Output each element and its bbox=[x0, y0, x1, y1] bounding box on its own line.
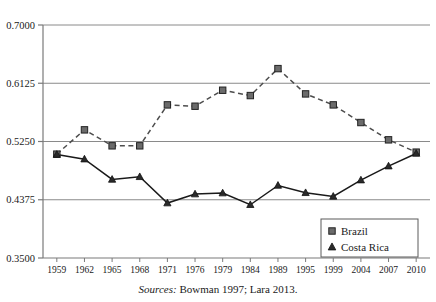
series-lines-group bbox=[57, 69, 416, 205]
x-axis-ticks-group: 1959196219651968197119761979198419891995… bbox=[47, 258, 426, 275]
x-tick-label: 1971 bbox=[158, 265, 177, 275]
series-markers-group bbox=[53, 65, 420, 207]
legend-label-costa-rica[interactable]: Costa Rica bbox=[341, 241, 389, 253]
y-tick-label: 0.7000 bbox=[6, 20, 35, 31]
y-tick-label: 0.5250 bbox=[6, 136, 35, 147]
legend-marker-brazil bbox=[329, 228, 335, 234]
x-tick-label: 1989 bbox=[268, 265, 287, 275]
legend-label-brazil[interactable]: Brazil bbox=[341, 225, 368, 237]
caption-text: Bowman 1997; Lara 2013. bbox=[177, 283, 298, 295]
source-caption: Sources: Bowman 1997; Lara 2013. bbox=[0, 283, 436, 295]
data-point-brazil-2007 bbox=[385, 137, 391, 143]
x-tick-label: 1984 bbox=[241, 265, 260, 275]
data-point-brazil-1979 bbox=[219, 87, 225, 93]
y-tick-label: 0.3500 bbox=[6, 253, 35, 264]
data-point-brazil-1995 bbox=[302, 91, 308, 97]
data-point-brazil-1999 bbox=[330, 102, 336, 108]
x-tick-label: 1976 bbox=[186, 265, 205, 275]
x-tick-label: 1965 bbox=[103, 265, 122, 275]
x-tick-label: 2007 bbox=[379, 265, 398, 275]
gridlines-group bbox=[43, 25, 430, 200]
y-tick-label: 0.4375 bbox=[6, 194, 35, 205]
line-chart: 0.70000.61250.52500.43750.3500 195919621… bbox=[0, 0, 436, 302]
y-tick-label: 0.6125 bbox=[6, 78, 35, 89]
figure-container: 0.70000.61250.52500.43750.3500 195919621… bbox=[0, 0, 436, 302]
data-point-brazil-1962 bbox=[81, 127, 87, 133]
data-point-brazil-1989 bbox=[275, 65, 281, 71]
data-point-brazil-1968 bbox=[137, 143, 143, 149]
x-tick-label: 2010 bbox=[407, 265, 426, 275]
data-point-brazil-1971 bbox=[164, 102, 170, 108]
data-point-brazil-1965 bbox=[109, 143, 115, 149]
data-point-brazil-2004 bbox=[358, 119, 364, 125]
chart-legend[interactable]: BrazilCosta Rica bbox=[321, 219, 418, 257]
y-axis-ticks-group: 0.70000.61250.52500.43750.3500 bbox=[6, 20, 43, 264]
caption-label: Sources: bbox=[139, 283, 177, 295]
x-tick-label: 2004 bbox=[351, 265, 370, 275]
data-point-brazil-1976 bbox=[192, 103, 198, 109]
x-tick-label: 1979 bbox=[213, 265, 232, 275]
x-tick-label: 1995 bbox=[296, 265, 315, 275]
data-point-costa-rica-1968 bbox=[136, 173, 143, 180]
x-tick-label: 1999 bbox=[324, 265, 343, 275]
x-tick-label: 1968 bbox=[130, 265, 149, 275]
data-point-brazil-1984 bbox=[247, 92, 253, 98]
x-tick-label: 1962 bbox=[75, 265, 94, 275]
data-point-costa-rica-1989 bbox=[274, 182, 281, 189]
x-tick-label: 1959 bbox=[47, 265, 66, 275]
